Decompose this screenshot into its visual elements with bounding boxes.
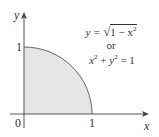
equation-line-1: y = √1 − x2 [82,25,140,38]
sqrt-body: 1 − x2 [110,24,136,38]
y-axis-label: y [14,9,19,21]
equation-line-3: x2 + y2 = 1 [82,54,142,66]
x-tick-label-1: 1 [89,117,95,129]
eq-exp-1: 2 [133,25,137,33]
equation-line-2: or [82,40,140,51]
diagram-canvas [0,0,159,137]
eq-y-lhs: y = [85,26,103,38]
y-tick-label-1: 1 [16,41,22,53]
sqrt-body-text: 1 − x [110,26,133,38]
eq-plus: + [98,54,110,66]
x-axis-label: x [144,120,149,132]
eq-rhs: = 1 [118,54,135,66]
origin-label: 0 [15,117,21,129]
